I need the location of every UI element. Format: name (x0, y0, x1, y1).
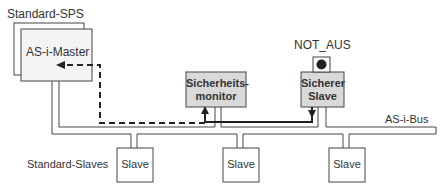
safety-monitor-label: Sicherheits- monitor (186, 77, 246, 103)
safe-slave-label-line2: Slave (301, 90, 344, 103)
not-aus-label: NOT_AUS (294, 38, 351, 52)
standard-sps-label: Standard-SPS (7, 7, 84, 21)
solid-signal-path (201, 106, 316, 122)
as-i-master-label: AS-i-Master (26, 45, 89, 59)
standard-slaves-label: Standard-Slaves (27, 158, 108, 170)
slave-label-1: Slave (117, 158, 153, 170)
emergency-stop-button-icon (317, 60, 327, 70)
slave-label-3: Slave (329, 158, 365, 170)
as-i-bus-label: AS-i-Bus (385, 113, 428, 125)
safety-monitor-label-line1: Sicherheits- (186, 77, 246, 90)
safe-slave-label: Sicherer Slave (301, 77, 344, 103)
arrow-down-icon (308, 110, 316, 118)
slave-label-2: Slave (223, 158, 259, 170)
safe-slave-label-line1: Sicherer (301, 77, 344, 90)
safety-monitor-label-line2: monitor (186, 90, 246, 103)
